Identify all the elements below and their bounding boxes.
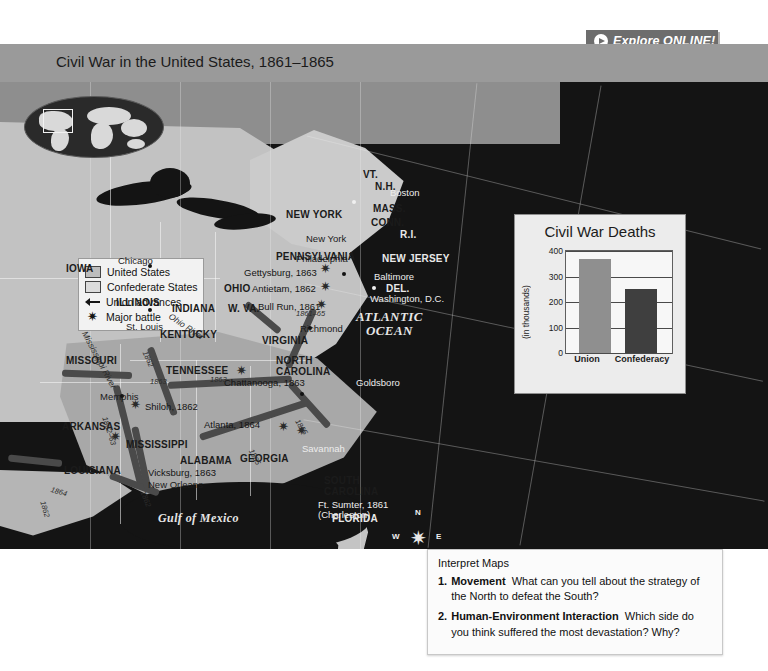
chart-ytick-300: 300 (549, 272, 563, 282)
chart-category-union: Union (565, 354, 609, 364)
map-label-gulf-of-mexico: Gulf of Mexico (158, 512, 239, 525)
civil-war-deaths-chart: Civil War Deaths (in thousands) 400 300 … (514, 214, 686, 394)
compass-east: E (436, 532, 441, 541)
chart-bar-union (579, 259, 611, 353)
globe-locator-box (43, 109, 73, 133)
compass-west: W (392, 532, 400, 541)
chart-ytick-0: 0 (558, 348, 563, 358)
question-body: Movement What can you tell about the str… (451, 574, 712, 604)
map-label-line: ATLANTIC (356, 310, 423, 324)
map-label-antietam: Antietam, 1862 (252, 284, 316, 294)
map-label-campaign-year: 1861–65 (296, 310, 325, 318)
city-dot (372, 286, 376, 290)
chart-title: Civil War Deaths (523, 223, 677, 240)
map-label-ft-sumter: Ft. Sumter, 1861 (Charleston) (318, 500, 388, 521)
question-number: 1. (438, 574, 447, 604)
question-term: Movement (451, 575, 505, 587)
map-label-richmond: Richmond (300, 324, 343, 334)
map-label-st-louis: St. Louis (126, 322, 163, 332)
map-label-line: Shiloh, 1862 (145, 402, 198, 412)
chart-gridline: 400 (566, 251, 672, 252)
interpret-question-2: 2. Human-Environment Interaction Which s… (438, 609, 712, 639)
map-label-shiloh: Shiloh, 1862 (145, 402, 198, 412)
map-label-memphis: Memphis (100, 392, 139, 402)
map-label-new-york: NEW YORK (286, 210, 342, 221)
question-body: Human-Environment Interaction Which side… (451, 609, 712, 639)
map-label-line: CAROLINA (324, 487, 378, 498)
chart-category-confederacy: Confederacy (607, 354, 677, 364)
map-label-goldsboro: Goldsboro (356, 378, 400, 388)
great-lake-michigan (150, 168, 190, 198)
map-label-vicksburg: Vicksburg, 1863 (148, 468, 216, 478)
battle-star-icon: ✷ (278, 420, 289, 433)
map-label-iowa: IOWA (66, 264, 93, 275)
legend-swatch-icon (85, 281, 101, 293)
map-label-line: CAROLINA (276, 367, 330, 378)
map-label-virginia: VIRGINIA (262, 336, 308, 347)
map-label-atlantic-ocean: ATLANTIC OCEAN (356, 310, 423, 338)
map-label-georgia: GEORGIA (240, 454, 289, 465)
map-label-philadelphia: Philadelphia (296, 254, 348, 264)
city-dot (300, 392, 304, 396)
legend-label: Confederate States (107, 281, 197, 293)
map-label-north-carolina: NORTH CAROLINA (276, 356, 330, 378)
map-page: Explore ONLINE! Civil War in the United … (0, 0, 768, 671)
map-label-line: Atlanta, 1864 (204, 420, 260, 430)
map-label-connecticut: CONN. (371, 218, 404, 229)
map-title: Civil War in the United States, 1861–186… (56, 53, 334, 70)
map-label-atlanta: Atlanta, 1864 (204, 420, 260, 430)
map-title-band: Civil War in the United States, 1861–186… (0, 44, 768, 82)
map-label-new-orleans: New Orleans (148, 480, 203, 490)
map-label-vermont: VT. (363, 170, 378, 181)
map-label-west-virginia: W. VA. (228, 304, 260, 315)
map-label-campaign-year: 1863 (150, 378, 167, 386)
map-label-campaign-year: 1863 (210, 376, 227, 384)
map-label-south-carolina: SOUTH CAROLINA (324, 476, 378, 498)
chart-axes: 400 300 200 100 0 (565, 250, 673, 354)
map-label-gettysburg: Gettysburg, 1863 (244, 268, 317, 278)
question-number: 2. (438, 609, 447, 639)
city-dot (342, 272, 346, 276)
map-label-alabama: ALABAMA (180, 456, 232, 467)
star-burst-icon: ✷ (85, 311, 100, 322)
map-label-louisiana: LOUISIANA (64, 466, 121, 477)
arrow-left-icon (85, 297, 100, 307)
chart-plot-area: (in thousands) 400 300 200 100 0 (523, 244, 679, 376)
map-label-boston: Boston (390, 188, 420, 198)
compass-north: N (415, 508, 421, 517)
chart-y-axis-label: (in thousands) (521, 266, 535, 358)
globe-continent (127, 139, 145, 149)
map-label-line: Chattanooga, 1863 (224, 378, 305, 388)
union-advance-arrow (8, 454, 62, 467)
map-label-indiana: INDIANA (172, 304, 215, 315)
legend-label: United States (107, 266, 170, 278)
city-dot (352, 200, 356, 204)
compass-rose: N E S W ✷ (390, 510, 446, 549)
map-label-chattanooga: Chattanooga, 1863 (224, 378, 305, 388)
map-label-new-jersey: NEW JERSEY (382, 254, 450, 265)
compass-star-icon: ✷ (408, 528, 428, 548)
battle-star-icon: ✷ (236, 364, 247, 377)
chart-ytick-100: 100 (549, 323, 563, 333)
map-label-chicago: Chicago (118, 256, 153, 266)
state-border (215, 232, 216, 342)
world-locator-globe (24, 96, 164, 158)
legend-item-united-states: United States (85, 264, 197, 279)
interpret-maps-box: Interpret Maps 1. Movement What can you … (427, 549, 723, 655)
map-label-rhode-island: R.I. (400, 230, 416, 241)
map-label-new-york-city: New York (306, 234, 346, 244)
interpret-heading: Interpret Maps (438, 557, 712, 569)
map-label-savannah: Savannah (302, 444, 345, 454)
globe-continent (91, 123, 113, 149)
chart-bar-confederacy (625, 289, 657, 353)
question-term: Human-Environment Interaction (451, 610, 618, 622)
chart-ytick-200: 200 (549, 297, 563, 307)
legend-item-confederate-states: Confederate States (85, 279, 197, 294)
map-label-illinois: ILLINOIS (116, 298, 160, 309)
map-label-ohio: OHIO (224, 284, 250, 295)
graticule-line (270, 82, 271, 549)
interpret-question-1: 1. Movement What can you tell about the … (438, 574, 712, 604)
map-label-baltimore: Baltimore (374, 272, 414, 282)
map-label-line: OCEAN (356, 324, 423, 338)
map-label-massachusetts: MASS. (373, 204, 406, 215)
